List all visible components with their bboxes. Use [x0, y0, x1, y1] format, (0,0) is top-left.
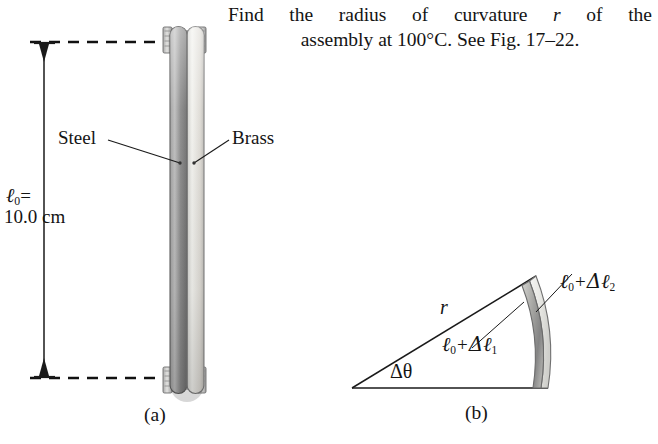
word: of — [586, 2, 602, 27]
steel-leader-line — [108, 140, 180, 163]
plus-sign: + — [456, 334, 469, 355]
word: radius — [339, 2, 387, 27]
inner-arc-length-label: ℓ0+Δℓ1 — [442, 333, 497, 357]
figure-page: Find the radius of curvature r of the as… — [0, 0, 658, 444]
delta-ell-glyph: Δℓ — [587, 269, 610, 293]
length-value-label: 10.0 cm — [4, 206, 65, 227]
radius-variable: r — [553, 2, 561, 27]
steel-leader-dot — [178, 161, 181, 164]
word: the — [628, 2, 652, 27]
radius-label: r — [440, 296, 448, 318]
figure-a-bimetallic-strip: ℓ0= 10.0 cm Steel Brass — [0, 0, 300, 444]
delta-ell-subscript: 1 — [492, 344, 498, 356]
equals-sign: = — [20, 185, 31, 206]
delta-ell-glyph: Δℓ — [469, 332, 492, 356]
word: curvature — [454, 2, 528, 27]
angle-label: Δθ — [390, 360, 412, 382]
steel-label: Steel — [58, 127, 96, 148]
brass-leader-dot — [192, 161, 195, 164]
length-symbol-label: ℓ0= — [6, 184, 31, 208]
caption-a: (a) — [144, 404, 166, 426]
plus-sign: + — [574, 271, 587, 292]
caption-b: (b) — [465, 402, 488, 424]
dimension-arrow-top — [39, 44, 49, 62]
outer-arc-length-label: ℓ0+Δℓ2 — [560, 270, 615, 294]
word: of — [412, 2, 428, 27]
dimension-arrow-bottom — [39, 358, 49, 376]
delta-ell-subscript: 2 — [610, 281, 616, 293]
brass-label: Brass — [232, 127, 274, 148]
